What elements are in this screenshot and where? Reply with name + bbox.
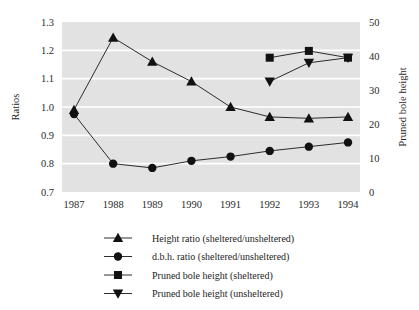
y2-tick-label: 20 bbox=[369, 119, 380, 130]
x-tick-label: 1990 bbox=[181, 199, 202, 210]
legend-item-4: Pruned bole height (unsheltered) bbox=[104, 288, 283, 300]
line-chart: 0.70.80.91.01.11.21.3 01020304050 198719… bbox=[0, 0, 419, 310]
legend-label: Pruned bole height (unsheltered) bbox=[152, 288, 283, 300]
legend-marker-triangle-up bbox=[113, 233, 123, 242]
legend-marker-circle bbox=[114, 252, 122, 260]
y-tick-label: 0.8 bbox=[41, 158, 54, 169]
y-tick-label: 1.0 bbox=[41, 102, 54, 113]
chart-figure: 0.70.80.91.01.11.21.3 01020304050 198719… bbox=[0, 0, 419, 310]
data-point-square bbox=[266, 54, 274, 62]
data-point-circle bbox=[226, 152, 234, 160]
legend-item-3: Pruned bole height (sheltered) bbox=[104, 270, 273, 282]
x-tick-label: 1989 bbox=[142, 199, 163, 210]
legend-label: Height ratio (sheltered/unsheltered) bbox=[152, 233, 294, 245]
y2-tick-label: 10 bbox=[369, 153, 380, 164]
y-tick-label: 1.3 bbox=[41, 17, 54, 28]
y-tick-label: 0.7 bbox=[41, 187, 54, 198]
x-tick-label: 1991 bbox=[220, 199, 241, 210]
x-tick-label: 1987 bbox=[64, 199, 85, 210]
x-tick-label: 1988 bbox=[103, 199, 124, 210]
legend-label: d.b.h. ratio (sheltered/unsheltered) bbox=[152, 251, 289, 263]
data-point-circle bbox=[70, 110, 78, 118]
y2-axis-title: Pruned bole height bbox=[397, 67, 408, 146]
y-tick-label: 1.2 bbox=[41, 45, 54, 56]
y-tick-label: 0.9 bbox=[41, 130, 54, 141]
x-tick-label: 1994 bbox=[338, 199, 360, 210]
y2-tick-label: 0 bbox=[369, 187, 374, 198]
data-point-square bbox=[305, 47, 313, 55]
data-point-circle bbox=[305, 142, 313, 150]
y-axis-title: Ratios bbox=[10, 94, 21, 121]
data-point-circle bbox=[187, 157, 195, 165]
y-axis-ticks: 0.70.80.91.01.11.21.3 bbox=[41, 17, 54, 198]
legend-marker-square bbox=[114, 271, 122, 279]
y-tick-label: 1.1 bbox=[41, 73, 54, 84]
data-point-circle bbox=[109, 159, 117, 167]
legend-item-1: Height ratio (sheltered/unsheltered) bbox=[104, 233, 294, 245]
x-tick-label: 1992 bbox=[259, 199, 280, 210]
legend-label: Pruned bole height (sheltered) bbox=[152, 270, 273, 282]
x-tick-label: 1993 bbox=[298, 199, 319, 210]
y2-tick-label: 50 bbox=[369, 17, 380, 28]
chart-legend: Height ratio (sheltered/unsheltered)d.b.… bbox=[104, 233, 294, 301]
data-point-circle bbox=[344, 138, 352, 146]
y2-tick-label: 40 bbox=[369, 51, 380, 62]
data-point-circle bbox=[148, 164, 156, 172]
legend-marker-triangle-down bbox=[113, 289, 123, 298]
y2-tick-label: 30 bbox=[369, 85, 380, 96]
legend-item-2: d.b.h. ratio (sheltered/unsheltered) bbox=[104, 251, 289, 263]
x-axis-ticks: 19871988198919901991199219931994 bbox=[64, 199, 360, 210]
y2-axis-ticks: 01020304050 bbox=[369, 17, 380, 198]
data-point-circle bbox=[266, 147, 274, 155]
